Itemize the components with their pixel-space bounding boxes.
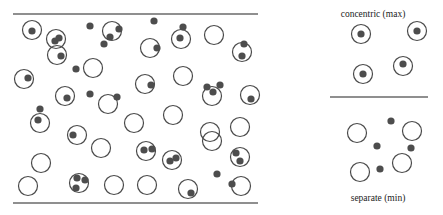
- filled-dot: [140, 146, 147, 153]
- filled-dot: [72, 65, 79, 72]
- separate-ring: [351, 163, 370, 182]
- filled-dot: [148, 145, 155, 152]
- filled-dot: [81, 176, 88, 183]
- filled-dot: [232, 149, 239, 156]
- ring-circle: [105, 176, 124, 195]
- ring-circle: [92, 139, 111, 158]
- separate-ring: [403, 122, 422, 141]
- filled-dot: [176, 34, 183, 41]
- ring-circle: [125, 114, 144, 133]
- ring-circle: [19, 177, 38, 196]
- filled-dot: [187, 189, 194, 196]
- filled-dot: [106, 33, 113, 40]
- filled-dot: [228, 180, 235, 187]
- separate-dot: [373, 142, 380, 149]
- filled-dot: [247, 95, 254, 102]
- concentric-dot: [359, 70, 366, 77]
- filled-dot: [34, 116, 41, 123]
- filled-dot: [115, 25, 122, 32]
- filled-dot: [63, 94, 70, 101]
- filled-dot: [36, 105, 43, 112]
- ring-circle: [205, 26, 224, 45]
- filled-dot: [113, 93, 120, 100]
- filled-dot: [86, 22, 93, 29]
- separate-dot: [376, 165, 383, 172]
- filled-dot: [153, 44, 160, 51]
- scatter-canvas: [0, 0, 443, 215]
- filled-dot: [203, 83, 210, 90]
- separate-dot: [387, 117, 394, 124]
- separate-ring: [393, 154, 412, 173]
- filled-dot: [209, 88, 216, 95]
- ring-circle: [32, 154, 51, 173]
- filled-dot: [179, 23, 186, 30]
- filled-dot: [57, 52, 64, 59]
- concentric-dot: [357, 30, 364, 37]
- concentric-dot: [413, 27, 420, 34]
- ring-circle: [179, 180, 198, 199]
- filled-dot: [69, 131, 76, 138]
- ring-circle: [84, 59, 103, 78]
- filled-dot: [147, 81, 154, 88]
- ring-circle: [138, 176, 157, 195]
- filled-dot: [100, 40, 107, 47]
- separate-dot: [407, 144, 414, 151]
- filled-dot: [86, 90, 93, 97]
- filled-dot: [236, 157, 243, 164]
- filled-dot: [240, 40, 247, 47]
- filled-dot: [213, 170, 220, 177]
- ring-circle: [174, 67, 193, 86]
- filled-dot: [28, 27, 35, 34]
- filled-dot: [238, 52, 245, 59]
- ring-circle: [164, 106, 183, 125]
- filled-dot: [150, 17, 157, 24]
- filled-dot: [172, 154, 179, 161]
- filled-dot: [24, 74, 31, 81]
- concentric-dot: [399, 60, 406, 67]
- filled-dot: [216, 81, 223, 88]
- concentric-max-label: concentric (max): [341, 9, 406, 19]
- figure: concentric (max) separate (min): [0, 0, 443, 215]
- separate-min-label: separate (min): [351, 193, 406, 203]
- separate-ring: [348, 124, 367, 143]
- filled-dot: [55, 34, 62, 41]
- ring-circle: [31, 114, 50, 133]
- filled-dot: [72, 184, 79, 191]
- filled-dot: [73, 174, 80, 181]
- ring-circle: [231, 118, 250, 137]
